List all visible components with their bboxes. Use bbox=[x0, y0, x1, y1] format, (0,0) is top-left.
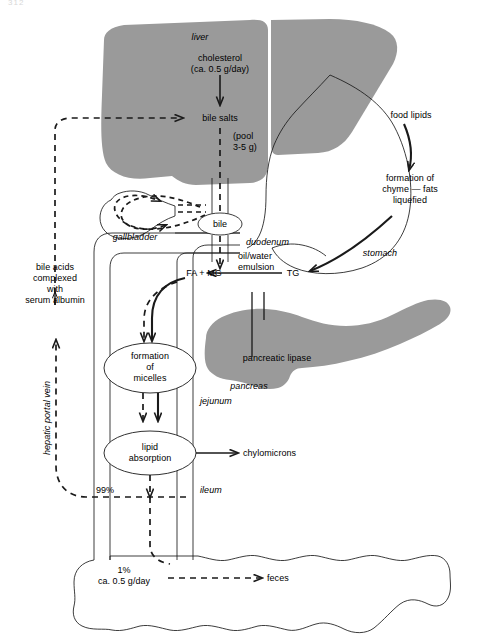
label-serum-albumin-3: with bbox=[47, 284, 63, 295]
label-food-lipids: food lipids bbox=[390, 110, 431, 121]
micelles-to-absorption bbox=[143, 393, 158, 421]
label-absorption-1: lipid bbox=[142, 442, 158, 453]
chyme-to-tg-arrow bbox=[310, 216, 392, 271]
label-bile-pool-2: 3-5 g) bbox=[233, 142, 257, 153]
label-hepatic-portal-vein: hepatic portal vein bbox=[42, 381, 53, 455]
label-gallbladder: gallbladder bbox=[113, 232, 158, 243]
label-cholesterol: cholesterol bbox=[198, 53, 242, 64]
diagram-page: 312 bbox=[0, 0, 486, 635]
label-1-percent: 1% bbox=[117, 565, 130, 576]
label-cholesterol-amount: (ca. 0.5 g/day) bbox=[191, 64, 249, 75]
label-chyme-2: chyme — fats bbox=[382, 184, 438, 195]
label-chyme-3: liquefied bbox=[393, 195, 427, 206]
label-duodenum: duodenum bbox=[246, 237, 289, 248]
label-jejunum: jejunum bbox=[200, 396, 232, 407]
label-absorption-2: absorption bbox=[129, 453, 172, 464]
label-bile-salts: bile salts bbox=[202, 113, 238, 124]
label-bile-node: bile bbox=[213, 219, 227, 230]
label-99-percent: 99% bbox=[96, 485, 114, 496]
liver-shape bbox=[101, 19, 397, 185]
label-tg: TG bbox=[287, 268, 300, 279]
label-serum-albumin-4: serum albumin bbox=[25, 295, 85, 306]
label-micelles-3: micelles bbox=[134, 373, 167, 384]
label-liver: liver bbox=[192, 32, 209, 43]
label-chylomicrons: chylomicrons bbox=[243, 448, 296, 459]
label-feces: feces bbox=[267, 573, 289, 584]
label-chyme-1: formation of bbox=[386, 173, 434, 184]
label-oil-water-2: emulsion bbox=[238, 262, 274, 273]
label-1-percent-amount: ca. 0.5 g/day bbox=[98, 576, 150, 587]
label-pancreatic-lipase: pancreatic lipase bbox=[243, 353, 311, 364]
label-serum-albumin-2: complexed bbox=[33, 273, 77, 284]
famg-to-micelles-solid bbox=[152, 278, 185, 341]
label-serum-albumin-1: bile acids bbox=[36, 262, 74, 273]
label-pancreas: pancreas bbox=[230, 381, 267, 392]
label-stomach: stomach bbox=[363, 248, 397, 259]
absorption-to-ileum-dashed bbox=[150, 475, 170, 564]
label-micelles-1: formation bbox=[131, 351, 169, 362]
label-ileum: ileum bbox=[200, 485, 222, 496]
label-micelles-2: of bbox=[146, 362, 154, 373]
label-bile-pool-1: (pool bbox=[233, 131, 253, 142]
label-fa-mg: FA + MG bbox=[186, 268, 222, 279]
lipid-digestion-diagram bbox=[0, 0, 486, 635]
pancreas-shape bbox=[205, 299, 451, 389]
label-oil-water-1: oil/water bbox=[238, 251, 272, 262]
